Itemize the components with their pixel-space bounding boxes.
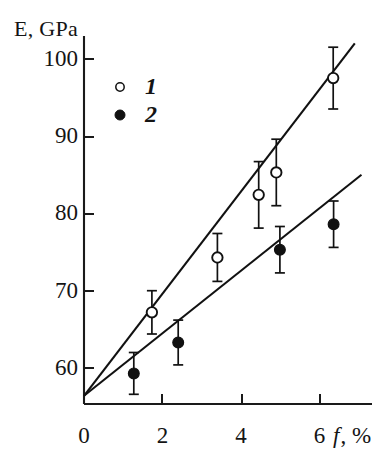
y-ticks-group (84, 59, 94, 368)
y-tick-label-80: 80 (18, 201, 78, 224)
fit-line-series-2 (84, 175, 362, 396)
marker-filled-circle (128, 368, 139, 379)
marker-filled-circle (328, 219, 339, 230)
datapoint-1-5 (328, 47, 338, 109)
marker-open-circle (271, 167, 281, 177)
figure-container: E, GPa f, % 10090807060 0246 12 (0, 0, 390, 468)
legend-open-circle-icon (112, 76, 130, 98)
y-tick-label-60: 60 (18, 356, 78, 379)
legend-label-2: 2 (145, 102, 157, 126)
x-ticks-group (162, 394, 320, 404)
datapoint-2-4 (328, 201, 339, 247)
marker-open-circle (147, 307, 157, 317)
legend-filled-circle-icon (112, 104, 130, 126)
marker-filled-circle (173, 337, 184, 348)
x-axis-units: , % (340, 423, 371, 448)
datapoint-1-1 (147, 291, 157, 334)
legend-label-1: 1 (145, 74, 157, 98)
x-tick-label-0: 0 (64, 424, 104, 447)
x-tick-label-6: 6 (300, 424, 340, 447)
datapoint-2-2 (173, 320, 184, 365)
y-tick-label-100: 100 (18, 47, 78, 70)
x-tick-label-2: 2 (143, 424, 183, 447)
y-tick-label-70: 70 (18, 279, 78, 302)
datapoint-1-2 (212, 234, 222, 282)
y-tick-label-90: 90 (18, 124, 78, 147)
datapoint-2-3 (275, 227, 286, 273)
marker-open-circle (212, 252, 222, 262)
x-tick-label-4: 4 (221, 424, 261, 447)
y-axis-title: E, GPa (14, 18, 78, 40)
marker-open-circle (254, 190, 264, 200)
marker-filled-circle (275, 244, 286, 255)
marker-open-circle (328, 73, 338, 83)
